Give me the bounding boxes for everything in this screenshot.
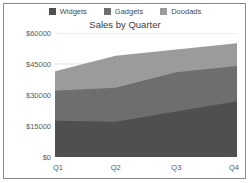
chart-figure: Widgets Gadgets Doodads Sales by Quarter…	[0, 0, 250, 183]
legend-label-doodads: Doodads	[171, 7, 201, 16]
stacked-area-plot	[55, 33, 237, 157]
x-axis-label: Q1	[53, 163, 63, 172]
y-axis-label: $45000	[3, 60, 51, 69]
legend-item-gadgets[interactable]: Gadgets	[104, 7, 143, 16]
legend-swatch-doodads	[160, 8, 167, 15]
chart-legend: Widgets Gadgets Doodads	[0, 7, 250, 16]
legend-label-widgets: Widgets	[60, 7, 87, 16]
x-axis-label: Q2	[111, 163, 121, 172]
y-axis-label: $60000	[3, 29, 51, 38]
legend-label-gadgets: Gadgets	[115, 7, 143, 16]
plot-area	[55, 33, 237, 157]
legend-swatch-widgets	[49, 8, 56, 15]
x-axis-label: Q3	[171, 163, 181, 172]
y-axis-label: $15000	[3, 122, 51, 131]
area-series-group	[55, 43, 237, 157]
legend-item-widgets[interactable]: Widgets	[49, 7, 87, 16]
x-axis-label: Q4	[229, 163, 239, 172]
legend-item-doodads[interactable]: Doodads	[160, 7, 201, 16]
legend-swatch-gadgets	[104, 8, 111, 15]
y-axis-label: $30000	[3, 91, 51, 100]
y-axis-label: $0	[3, 153, 51, 162]
